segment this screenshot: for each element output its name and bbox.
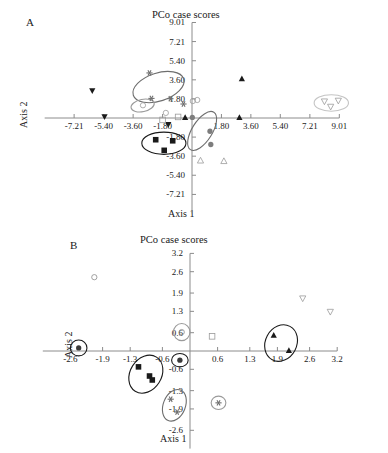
marker-circle-open (140, 103, 145, 108)
data-points (89, 70, 341, 163)
series-gray-filled-circle (190, 115, 214, 147)
series-gray-circle-spiral (92, 275, 185, 335)
marker-circle-filled (190, 115, 195, 120)
y-tick-label: -5.40 (166, 170, 185, 180)
x-tick-label: 2.6 (304, 354, 316, 364)
x-tick-label: 3.2 (332, 354, 343, 364)
marker-triangle-down-open (321, 99, 327, 105)
series-open-triangle-down (321, 98, 341, 110)
marker-triangle-down-filled (89, 88, 95, 94)
marker-asterisk (215, 400, 221, 405)
marker-triangle-down-open (300, 296, 306, 302)
x-tick-label: -0.6 (155, 354, 170, 364)
series-filled-triangle-up (182, 75, 245, 120)
panel-b: B PCo case scores Axis 2 Axis 1 -2.6-1.9… (0, 225, 388, 453)
x-tick-label: -1.9 (95, 354, 110, 364)
group-ellipses (70, 319, 303, 425)
series-open-square (209, 334, 215, 340)
panel-a: A PCo case scores Axis 2 Axis 1 -7.21-5.… (0, 0, 388, 228)
marker-triangle-up-filled (182, 114, 188, 120)
y-tick-label: 1.9 (172, 288, 184, 298)
series-filled-triangle-up (271, 332, 292, 353)
marker-triangle-up-filled (271, 332, 277, 338)
y-tick-label: 3.2 (172, 248, 183, 258)
x-axis-ticks: -7.21-5.40-3.60-1.801.803.605.407.219.01 (65, 114, 347, 131)
marker-square-filled (161, 148, 167, 154)
marker-circle-filled (177, 358, 182, 363)
marker-triangle-up-filled (286, 347, 292, 353)
marker-triangle-down-open (327, 309, 333, 315)
marker-circle-open (92, 275, 97, 280)
x-tick-label: 0.6 (212, 354, 224, 364)
pco-figure: A PCo case scores Axis 2 Axis 1 -7.21-5.… (0, 0, 388, 453)
y-tick-label: -2.6 (169, 425, 184, 435)
marker-square-filled (170, 138, 176, 144)
marker-circle-filled (76, 345, 81, 350)
x-tick-label: -7.21 (65, 121, 84, 131)
marker-square-open (175, 114, 181, 120)
series-open-triangle-down (300, 296, 334, 315)
x-tick-label: 3.60 (243, 121, 259, 131)
marker-circle-filled (207, 129, 212, 134)
group-ellipses (129, 66, 349, 155)
y-tick-label: 1.3 (172, 306, 184, 316)
y-tick-label: 9.01 (169, 17, 185, 27)
x-axis-ticks: -2.6-1.9-1.3-0.60.61.31.92.63.2 (63, 347, 343, 364)
x-tick-label: 1.3 (244, 354, 256, 364)
marker-triangle-up-filled (239, 75, 245, 81)
marker-triangle-down-filled (101, 114, 107, 120)
x-tick-label: -3.60 (124, 121, 143, 131)
marker-square-filled (136, 364, 142, 370)
x-tick-label: 7.21 (302, 121, 318, 131)
marker-square-filled (149, 377, 155, 383)
series-filled-square (136, 364, 155, 383)
marker-triangle-up-open (221, 158, 227, 164)
y-tick-label: 2.6 (172, 267, 184, 277)
y-tick-label: 7.21 (169, 37, 185, 47)
marker-square-open (209, 334, 215, 340)
y-tick-label: -7.21 (166, 189, 185, 199)
series-open-triangle-up (197, 157, 227, 163)
marker-triangle-down-open (328, 104, 334, 110)
marker-circle-open (163, 110, 168, 115)
marker-asterisk (168, 397, 174, 402)
marker-triangle-up-open (197, 157, 203, 163)
axes (43, 253, 337, 448)
x-tick-label: 5.40 (272, 121, 288, 131)
x-tick-label: 9.01 (331, 121, 347, 131)
y-tick-label: 3.60 (169, 75, 185, 85)
x-tick-label: 1.9 (272, 354, 284, 364)
x-tick-label: -5.40 (94, 121, 113, 131)
data-points (76, 275, 333, 415)
panel-a-plot-area: -7.21-5.40-3.60-1.801.803.605.407.219.01… (0, 0, 388, 228)
marker-square-filled (153, 137, 159, 143)
marker-triangle-up-filled (236, 114, 242, 120)
marker-triangle-down-open (335, 98, 341, 104)
y-tick-label: 5.40 (169, 56, 185, 66)
marker-circle-filled (208, 142, 213, 147)
panel-b-plot-area: -2.6-1.9-1.3-0.60.61.31.92.63.23.22.61.9… (0, 225, 388, 453)
